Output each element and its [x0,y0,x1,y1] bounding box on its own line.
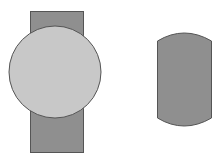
diagram-canvas [0,0,223,158]
right-barrel-shape [158,33,212,126]
left-circle [9,26,101,118]
